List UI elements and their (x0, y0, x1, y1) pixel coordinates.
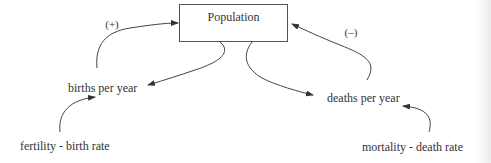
arrow-population-to-deaths (246, 42, 313, 95)
edge-shadow (477, 0, 491, 163)
arrow-mortality-to-deaths (403, 106, 430, 132)
mortality-death-rate-label: mortality - death rate (362, 140, 463, 154)
population-node: Population (180, 5, 288, 42)
causal-loop-diagram: Population (+) births per year fertility… (0, 0, 491, 163)
population-label: Population (207, 10, 259, 24)
polarity-positive-label: (+) (105, 18, 119, 31)
births-per-year-label: births per year (68, 81, 137, 95)
arrow-population-to-births (148, 42, 225, 85)
deaths-per-year-label: deaths per year (327, 91, 400, 105)
arrow-deaths-to-population (292, 24, 371, 80)
polarity-negative-label: (–) (345, 26, 358, 39)
fertility-birth-rate-label: fertility - birth rate (20, 139, 110, 153)
arrow-fertility-to-births (60, 97, 95, 132)
